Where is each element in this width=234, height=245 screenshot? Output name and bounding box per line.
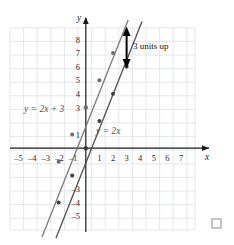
x-tick-label: 5 [152, 153, 156, 163]
y-tick-label: –4 [71, 198, 81, 208]
x-tick-labels: –5 –4 –3 –2 –1 1 2 3 4 5 6 7 [13, 153, 183, 163]
x-tick-label: 6 [165, 153, 169, 163]
x-tick-label: 2 [111, 153, 115, 163]
y-tick-labels: 8 7 6 5 4 3 1 –3 –4 –5 [71, 35, 81, 222]
y-tick-label: 6 [76, 62, 80, 72]
axes [10, 17, 209, 232]
x-tick-label: 7 [179, 153, 183, 163]
y-tick-label: 7 [76, 48, 80, 58]
x-tick-label: –1 [68, 153, 78, 163]
annotation-three-units-up: 3 units up [133, 41, 169, 51]
x-tick-label: –2 [54, 153, 64, 163]
y-tick-label: 1 [76, 130, 80, 140]
x-tick-label: –3 [41, 153, 51, 163]
y-tick-label: 8 [76, 35, 80, 45]
x-tick-label: 4 [138, 153, 143, 163]
equation-label-y-2x: y = 2x [95, 126, 121, 136]
y-tick-label: –3 [71, 184, 81, 194]
y-axis-arrowhead [83, 17, 89, 24]
y-tick-label: –5 [71, 211, 81, 221]
y-axis-name: y [76, 13, 82, 23]
x-tick-label: 1 [97, 153, 101, 163]
y-tick-label: 5 [76, 75, 80, 85]
equation-label-y-2x-plus-3: y = 2x + 3 [23, 104, 65, 114]
x-axis-name: x [204, 152, 210, 162]
x-axis-arrowhead [202, 145, 209, 151]
corner-marker-icon [212, 219, 221, 228]
x-tick-label: –5 [13, 153, 23, 163]
y-tick-label: 4 [76, 89, 81, 99]
x-tick-label: –4 [27, 153, 37, 163]
graph-figure: –5 –4 –3 –2 –1 1 2 3 4 5 6 7 8 7 6 5 4 3… [0, 0, 234, 245]
y-tick-label: 3 [76, 103, 80, 113]
x-tick-label: 3 [124, 153, 128, 163]
coordinate-plane-svg: –5 –4 –3 –2 –1 1 2 3 4 5 6 7 8 7 6 5 4 3… [0, 0, 234, 245]
